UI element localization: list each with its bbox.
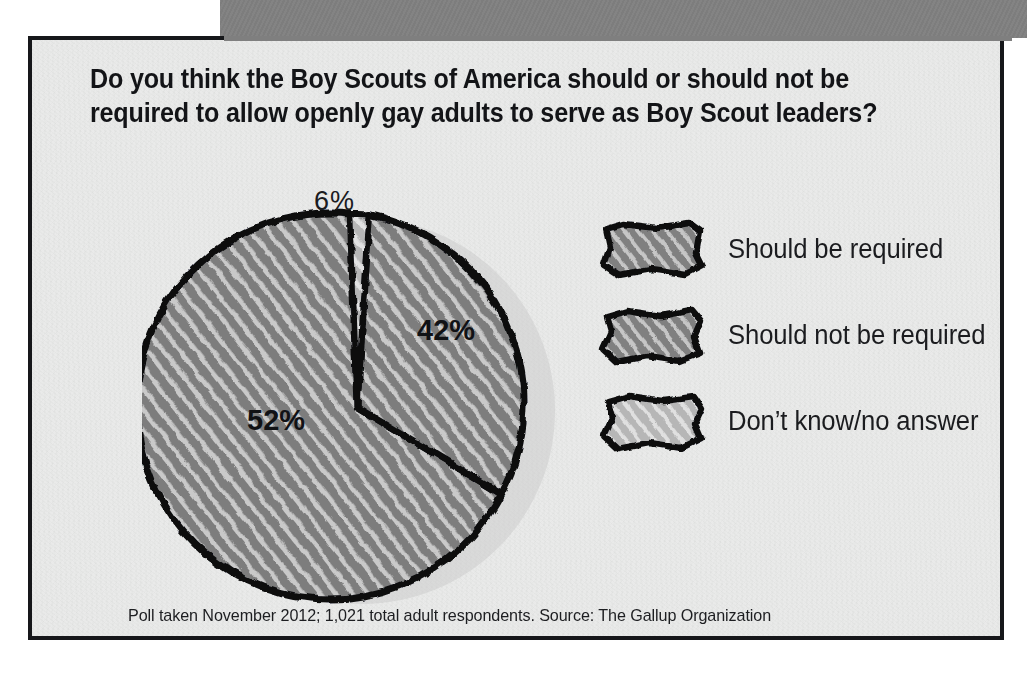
legend-label: Should not be required: [728, 322, 985, 349]
banner-overlap-mask: [224, 36, 1012, 41]
pie-label-42: 42%: [417, 314, 475, 346]
dark-hatched-swatch-icon: [598, 218, 706, 280]
pie-label-6: 6%: [314, 186, 355, 216]
legend-label: Don’t know/no answer: [728, 408, 978, 435]
pie-label-52: 52%: [247, 404, 305, 436]
legend-item-dont-know[interactable]: Don’t know/no answer: [598, 378, 1018, 464]
source-footnote: Poll taken November 2012; 1,021 total ad…: [128, 606, 771, 626]
header-banner: of Scouts: [220, 0, 1027, 38]
dark-hatched-swatch-icon: [598, 304, 706, 366]
poll-infographic: of Scouts Do you think the Boy Scouts of…: [0, 0, 1027, 684]
pie-chart: 42% 52% 6%: [142, 180, 572, 630]
chart-card: Do you think the Boy Scouts of America s…: [28, 36, 1004, 640]
pie-chart-svg: 42% 52% 6%: [142, 180, 572, 630]
question-title: Do you think the Boy Scouts of America s…: [90, 62, 899, 130]
legend-label: Should be required: [728, 236, 943, 263]
banner-title: of Scouts: [220, 0, 1027, 10]
chart-legend: Should be required Should not be require…: [598, 206, 1018, 464]
light-hatched-swatch-icon: [598, 390, 706, 452]
legend-item-should-be-required[interactable]: Should be required: [598, 206, 1018, 292]
legend-item-should-not-be-required[interactable]: Should not be required: [598, 292, 1018, 378]
pie-slices: [142, 212, 523, 598]
